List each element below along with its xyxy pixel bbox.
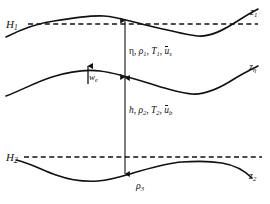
upper-layer-properties-label: η, ρ1, T1, us	[129, 47, 172, 57]
upper-layer-velocity-subscript: s	[169, 50, 172, 57]
upper-mean-level-label: H1	[6, 19, 18, 32]
top-surface-curve	[6, 9, 258, 37]
diagram-canvas	[0, 0, 270, 204]
bottom-surface-curve	[16, 160, 252, 181]
interface-surface-label: zη	[249, 62, 256, 74]
lower-layer-velocity-subscript: b	[169, 109, 172, 116]
top-surface-subscript: 1	[254, 11, 257, 18]
lower-layer-properties-label: h, ρ2, T2, ub	[129, 106, 172, 116]
bottom-surface-label: z2	[249, 171, 256, 183]
lower-mean-level-label: H2	[6, 152, 18, 165]
bottom-surface-subscript: 2	[253, 175, 256, 182]
lower-mean-level-subscript: 2	[14, 156, 18, 165]
upper-layer-velocity-symbol: u	[165, 47, 170, 57]
lower-layer-velocity-symbol: u	[164, 106, 169, 116]
entrainment-velocity-label: we	[89, 73, 98, 83]
figure-container: H1 H2 z1 zη z2 we η, ρ1, T1, us h, ρ2, T…	[0, 0, 270, 204]
substrate-density-label: ρ3	[136, 181, 144, 193]
interface-surface-subscript: η	[253, 66, 256, 73]
interface-curve	[6, 66, 258, 96]
entrainment-velocity-subscript: e	[95, 77, 98, 83]
top-surface-label: z1	[250, 7, 257, 19]
upper-mean-level-subscript: 1	[14, 23, 18, 32]
substrate-density-subscript: 3	[141, 185, 144, 192]
